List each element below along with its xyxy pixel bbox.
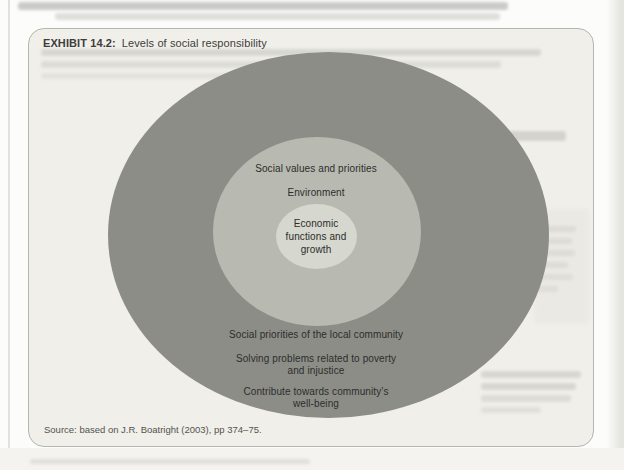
- middle-ring-label-environment: Environment: [287, 187, 344, 199]
- bleed-through-line: [18, 2, 508, 10]
- outer-ring-label-contribute: Contribute towards community’s well-bein…: [243, 386, 388, 410]
- page-bottom-margin: [0, 448, 624, 470]
- label-line: Economic: [286, 217, 347, 230]
- label-line: well-being: [243, 398, 388, 410]
- label-line: and injustice: [236, 365, 396, 377]
- exhibit-title-text: Levels of social responsibility: [122, 37, 267, 49]
- bleed-through-line: [481, 407, 541, 413]
- source-note: Source: based on J.R. Boatright (2003), …: [44, 424, 262, 435]
- bleed-through-line: [481, 383, 576, 390]
- exhibit-number-label: EXHIBIT 14.2:: [43, 37, 116, 49]
- exhibit-box: EXHIBIT 14.2:Levels of social responsibi…: [28, 28, 594, 447]
- label-line: Social values and priorities: [255, 163, 377, 175]
- label-line: functions and: [286, 230, 347, 243]
- exhibit-title: EXHIBIT 14.2:Levels of social responsibi…: [43, 35, 267, 51]
- bleed-through-line: [481, 395, 571, 402]
- inner-ring-label-economic: Economic functions and growth: [286, 217, 347, 256]
- label-line: Environment: [287, 187, 344, 199]
- label-line: growth: [286, 243, 347, 256]
- label-line: Social priorities of the local community: [229, 329, 403, 341]
- label-line: Contribute towards community’s: [243, 386, 388, 398]
- bleed-through-line: [481, 371, 581, 378]
- label-line: Solving problems related to poverty: [236, 353, 396, 365]
- middle-ring-label-social-values: Social values and priorities: [255, 163, 377, 175]
- outer-ring-label-solving-problems: Solving problems related to poverty and …: [236, 353, 396, 377]
- page-gutter-line: [8, 0, 10, 470]
- outer-ring-label-social-priorities: Social priorities of the local community: [229, 329, 403, 341]
- bleed-through-line: [55, 13, 500, 20]
- page-right-edge: [606, 0, 624, 470]
